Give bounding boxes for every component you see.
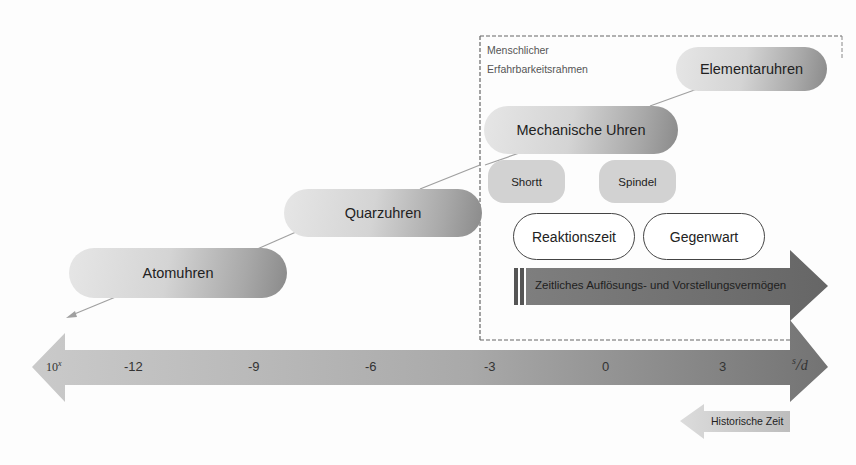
quarzuhren-label: Quarzuhren — [345, 205, 422, 221]
timeline-unit-label: s/d — [792, 355, 808, 375]
gegenwart-pill: Gegenwart — [643, 213, 765, 260]
experience-frame-label: Menschlicher Erfahrbarkeitsrahmen — [487, 41, 588, 79]
mechanische-uhren-label: Mechanische Uhren — [517, 122, 646, 138]
timeline-arrow-shape — [32, 320, 828, 402]
atomuhren-label: Atomuhren — [143, 265, 214, 281]
mechanische-uhren-pill: Mechanische Uhren — [484, 106, 678, 154]
shortt-pill: Shortt — [488, 160, 565, 203]
timeline-tick: -3 — [484, 359, 496, 374]
atomuhren-pill: Atomuhren — [69, 248, 287, 298]
spindel-label: Spindel — [618, 176, 656, 188]
frame-label-line2: Erfahrbarkeitsrahmen — [487, 60, 588, 79]
elementaruhren-pill: Elementaruhren — [676, 47, 827, 91]
timeline-tick: 3 — [719, 359, 726, 374]
timeline-tick: -6 — [365, 359, 377, 374]
reaktionszeit-label: Reaktionszeit — [532, 229, 616, 245]
timeline-base-label: 10x — [46, 359, 62, 375]
spindel-pill: Spindel — [599, 160, 676, 203]
frame-label-line1: Menschlicher — [487, 41, 588, 60]
base-ten: 10 — [46, 360, 58, 374]
timeline-tick: -9 — [248, 359, 260, 374]
historical-time-label: Historische Zeit — [711, 415, 783, 427]
timeline-tick: 0 — [602, 359, 609, 374]
resolution-arrow-label: Zeitliches Auflösungs- und Vorstellungsv… — [535, 279, 786, 291]
timeline-tick: -12 — [124, 359, 143, 374]
gegenwart-label: Gegenwart — [670, 229, 738, 245]
unit-denominator: d — [801, 358, 808, 373]
reaktionszeit-pill: Reaktionszeit — [513, 213, 635, 260]
shortt-label: Shortt — [511, 176, 542, 188]
elementaruhren-label: Elementaruhren — [700, 61, 803, 77]
quarzuhren-pill: Quarzuhren — [284, 189, 482, 237]
base-exponent: x — [58, 359, 62, 368]
